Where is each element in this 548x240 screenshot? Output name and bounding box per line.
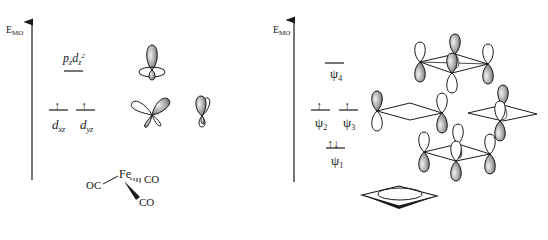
electron-psi2: ↑ bbox=[316, 100, 322, 112]
electron-psi1: ↑↓ bbox=[327, 138, 339, 150]
cyclobutadiene-fragment bbox=[362, 186, 437, 209]
orbital-psi4-picture bbox=[415, 34, 494, 93]
label-psi3: ψ3 bbox=[343, 116, 355, 132]
left-axis-label: EMO bbox=[6, 25, 23, 37]
right-axis-label: EMO bbox=[273, 25, 290, 37]
label-psi2: ψ2 bbox=[315, 116, 327, 132]
orbital-dyz-picture bbox=[196, 96, 210, 127]
co-ligand-left: OC bbox=[86, 180, 101, 191]
orbital-psi2-picture bbox=[372, 91, 448, 133]
orbital-pz-dz2-picture bbox=[139, 45, 165, 80]
label-pz-dz2: pzdz2 bbox=[63, 52, 85, 67]
electron-dyz: ↑ bbox=[81, 100, 87, 112]
label-dxz: dxz bbox=[52, 118, 65, 134]
co-ligand-right: CO bbox=[144, 174, 159, 185]
label-psi4: ψ4 bbox=[330, 67, 342, 83]
orbital-dxz-picture bbox=[131, 98, 169, 127]
electron-dxz: ↑ bbox=[54, 100, 60, 112]
orbital-psi3-picture bbox=[468, 85, 537, 141]
label-psi1: ψ1 bbox=[331, 154, 343, 170]
fe-atom-label: Fe bbox=[119, 168, 131, 180]
electron-psi3: ↑ bbox=[344, 100, 350, 112]
label-dyz: dyz bbox=[80, 118, 93, 134]
co-ligand-bottom: CO bbox=[139, 197, 154, 208]
orbital-psi1-picture bbox=[419, 124, 496, 181]
